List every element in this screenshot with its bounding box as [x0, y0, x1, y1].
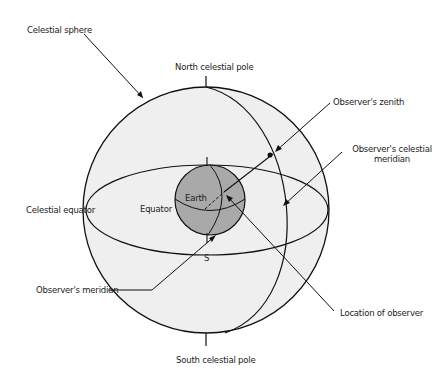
- label-s: S: [204, 253, 209, 263]
- label-north-celestial-pole: North celestial pole: [175, 62, 254, 72]
- zenith-point: [268, 153, 273, 158]
- label-observers-celestial-meridian: Observer's celestial meridian: [347, 144, 437, 164]
- label-location-of-observer: Location of observer: [340, 308, 423, 318]
- celestial-sphere-leader: [84, 34, 143, 98]
- label-celestial-equator: Celestial equator: [26, 205, 95, 215]
- label-earth: Earth: [185, 193, 207, 203]
- label-line: meridian: [347, 154, 437, 164]
- label-observers-meridian: Observer's meridian: [36, 285, 118, 295]
- label-equator: Equator: [140, 204, 172, 214]
- label-south-celestial-pole: South celestial pole: [176, 355, 255, 365]
- celestial-sphere-diagram: [0, 0, 437, 383]
- label-celestial-sphere: Celestial sphere: [27, 25, 92, 35]
- label-observers-zenith: Observer's zenith: [333, 97, 404, 107]
- label-line: Observer's celestial: [347, 144, 437, 154]
